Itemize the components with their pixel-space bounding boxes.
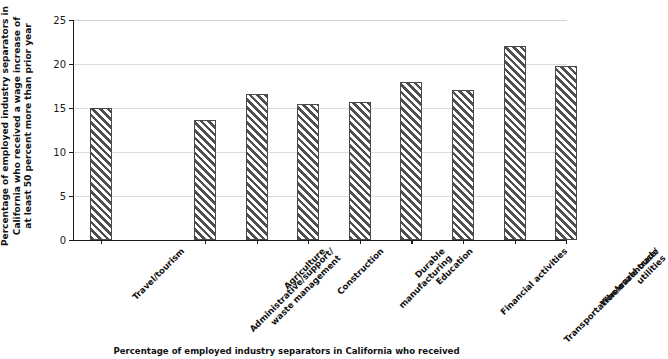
y-axis-tick-mark [69,240,74,241]
gridline [74,152,567,153]
bar[interactable] [194,120,216,240]
gridline [74,108,567,109]
y-axis-tick-label: 0 [60,235,66,246]
x-axis-tick-mark [101,240,102,244]
figure-caption: Percentage of employed industry separato… [0,346,573,357]
x-axis-tick-mark [515,240,516,244]
x-axis-tick-label-line: Wholesale trade [598,246,661,309]
gridline [74,20,567,21]
bar[interactable] [452,90,474,240]
gridline [74,64,567,65]
x-axis-tick-label: Construction [335,246,386,297]
bar[interactable] [504,46,526,240]
x-axis-tick-label: Administrative/support/waste management [248,246,344,342]
y-axis-tick-mark [69,196,74,197]
y-axis-tick-mark [69,108,74,109]
bar[interactable] [349,102,371,240]
x-axis-tick-label: Travel/tourism [130,246,186,302]
x-axis-tick-label-line: Construction [335,246,386,297]
x-axis-tick-label-line: utilities [569,253,668,352]
x-axis-tick-mark [463,240,464,244]
y-axis-tick-mark [69,20,74,21]
bar[interactable] [246,94,268,240]
x-axis-tick-label: Wholesale trade [598,246,661,309]
y-axis-tick-mark [69,64,74,65]
y-axis-tick-mark [69,152,74,153]
x-axis-tick-mark [205,240,206,244]
bar[interactable] [297,104,319,240]
x-axis-tick-label-line: Travel/tourism [130,246,186,302]
x-axis-tick-mark [308,240,309,244]
x-axis-tick-mark [360,240,361,244]
x-axis-tick-label-line: Financial activities [498,246,569,317]
y-axis-title: Percentage of employed industry separato… [0,8,34,244]
bar[interactable] [400,82,422,240]
y-axis-tick-label: 5 [60,191,66,202]
x-axis-tick-mark [566,240,567,244]
y-axis-title-line-3: at least 50 percent more than prior year [23,6,35,246]
x-axis-tick-label: Financial activities [498,246,569,317]
y-axis-tick-label: 25 [53,15,66,26]
y-axis-tick-label: 15 [53,103,66,114]
bar[interactable] [90,108,112,240]
gridline [74,196,567,197]
x-axis-tick-label-line: Administrative/support/ [248,246,336,334]
y-axis-tick-label: 10 [53,147,66,158]
y-axis-title-line-2: California who received a wage increase … [11,6,23,246]
y-axis-title-line-1: Percentage of employed industry separato… [0,6,11,246]
plot-area: 0510152025 [73,20,567,241]
x-axis-tick-mark [411,240,412,244]
y-axis-tick-label: 20 [53,59,66,70]
x-axis-tick-mark [257,240,258,244]
bar[interactable] [555,66,577,240]
